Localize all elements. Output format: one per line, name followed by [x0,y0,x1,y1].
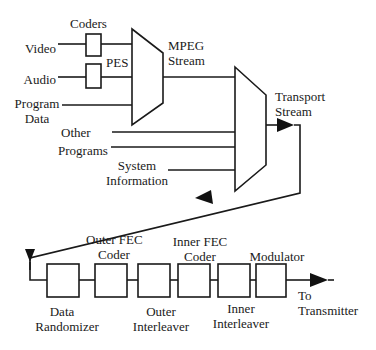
mpeg-stream-label-1: MPEG [168,38,204,53]
outer-interleaver-label-2: Interleaver [132,319,190,334]
modulator-label: Modulator [246,249,308,264]
video-coder-block [86,34,101,56]
data-randomizer-block [47,264,79,297]
outer-interleaver-block [138,264,170,297]
other-programs-label-2: Programs [58,143,108,158]
system-information-label-1: System [106,158,168,173]
outer-interleaver-label-1: Outer [132,304,190,319]
system-information-label-2: Information [106,173,168,188]
output-arrow-icon [310,273,328,287]
outer-fec-coder-label-2: Coder [86,247,142,262]
mpeg-multiplexer [132,29,163,125]
program-data-label-2: Data [10,111,64,126]
route-arrow-icon [195,190,213,204]
program-data-label-1: Program [10,96,64,111]
data-randomizer-label-2: Randomizer [34,319,100,334]
transmission-block-diagram: Coders Video PES Audio Program Data MPEG… [0,0,376,350]
inner-interleaver-label-1: Inner [212,301,270,316]
inner-fec-coder-label-2: Coder [172,249,228,264]
modulator-block [256,264,286,297]
mpeg-stream-label-2: Stream [168,53,205,68]
chain-entry-line [30,262,47,280]
inner-fec-coder-block [178,264,210,297]
transport-stream-label-2: Stream [275,104,312,119]
inner-fec-coder-label-1: Inner FEC [172,234,228,249]
audio-coder-block [86,64,101,88]
outer-fec-coder-label-1: Outer FEC [86,232,142,247]
transport-multiplexer [235,67,266,191]
other-programs-label-1: Other [61,125,91,140]
transport-stream-label-1: Transport [275,89,325,104]
outer-fec-coder-block [95,264,127,297]
data-randomizer-label-1: Data [34,304,90,319]
transport-stream-arrow-icon [277,118,294,132]
to-transmitter-label-2: Transmitter [298,303,358,318]
pes-label: PES [106,55,128,70]
coders-label: Coders [70,16,107,31]
audio-label: Audio [14,72,56,87]
video-label: Video [16,41,56,56]
down-arrow-icon [25,249,35,262]
inner-interleaver-label-2: Interleaver [212,316,270,331]
inner-interleaver-block [218,264,250,297]
to-transmitter-label-1: To [298,288,312,303]
